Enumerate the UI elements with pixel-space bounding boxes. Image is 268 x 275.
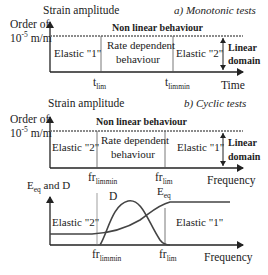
panel-b-x-label: Frequency [207, 174, 256, 187]
panel-c-eeq-damping: Eeq and D D Eeq Elastic "2" Elastic "1" … [27, 179, 253, 264]
panel-b-linear-label: Linear [228, 137, 257, 148]
panel-b-region-elastic2: Elastic "2" [52, 141, 99, 153]
panel-c-x-label: Frequency [204, 251, 253, 264]
panel-a-linear-label: Linear [228, 42, 257, 53]
panel-a-tick-tlim: tlim [93, 76, 106, 91]
panel-c-tick-frlimmin: frlimmin [92, 248, 122, 263]
panel-c-tick-frlim: frlim [159, 248, 177, 263]
panel-c-region-elastic2: Elastic "2" [52, 216, 99, 228]
panel-b-nonlinear-label: Non linear behaviour [96, 116, 187, 127]
panel-c-eeq-label: Eeq [157, 185, 171, 200]
panel-b-region-elastic1: Elastic "1" [177, 141, 224, 153]
panel-b-tick-frlim: frlim [155, 171, 173, 186]
panel-a-title: a) Monotonic tests [174, 4, 256, 17]
panel-b-order-line2: 10-5 m/m [10, 125, 52, 139]
panel-a-region-rate-line1: Rate dependent [107, 39, 175, 51]
panel-a-domain-label: domain [228, 55, 261, 66]
panel-b-tick-frlimmin: frlimmin [88, 171, 118, 186]
panel-a-monotonic: Strain amplitude a) Monotonic tests Orde… [10, 4, 261, 91]
panel-b-y-label: Strain amplitude [48, 97, 124, 110]
strain-behaviour-diagram: Strain amplitude a) Monotonic tests Orde… [0, 0, 268, 275]
panel-a-region-elastic1: Elastic "1" [54, 47, 101, 59]
panel-a-order-line2: 10-5 m/m [10, 30, 52, 44]
panel-a-order-line1: Order of [10, 18, 49, 30]
panel-b-domain-label: domain [228, 151, 261, 162]
panel-b-region-rate-line2: behaviour [111, 148, 155, 160]
panel-a-region-elastic2: Elastic "2" [176, 47, 223, 59]
panel-b-cyclic: Strain amplitude b) Cyclic tests Order o… [10, 97, 261, 187]
panel-b-title: b) Cyclic tests [184, 97, 246, 110]
panel-a-x-label: Time [221, 79, 245, 91]
panel-b-region-rate-line1: Rate dependent [101, 134, 169, 146]
panel-a-region-rate-line2: behaviour [116, 53, 160, 65]
panel-a-y-label: Strain amplitude [43, 4, 119, 17]
panel-a-nonlinear-label: Non linear behaviour [112, 22, 203, 33]
panel-c-y-label: Eeq and D [27, 179, 70, 194]
panel-c-region-elastic1: Elastic "1" [176, 216, 223, 228]
panel-a-tick-tlimmin: tlimmin [165, 76, 190, 91]
panel-c-d-label: D [109, 190, 117, 202]
panel-b-order-line1: Order of [10, 113, 49, 125]
